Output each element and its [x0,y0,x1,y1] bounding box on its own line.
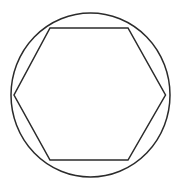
geometry-diagram [0,0,181,187]
hexagon-outline [14,28,166,160]
circle-outline [11,13,170,177]
figure-canvas [0,0,181,187]
